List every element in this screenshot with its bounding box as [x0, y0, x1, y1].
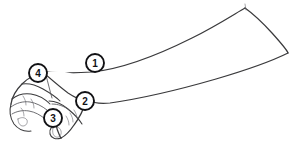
marker-3[interactable]: 3: [44, 109, 62, 127]
thumb-hatch-b: [70, 113, 73, 122]
anatomical-figure: 1 2 3 4: [0, 0, 298, 151]
forearm-silhouette: [88, 9, 288, 104]
thumb-hatch-a: [66, 116, 69, 125]
marker-4[interactable]: 4: [29, 64, 47, 82]
marker-3-circle[interactable]: [44, 109, 62, 127]
marker-1-circle[interactable]: [86, 54, 104, 72]
marker-2-circle[interactable]: [76, 92, 94, 110]
marker-1[interactable]: 1: [86, 54, 104, 72]
marker-4-circle[interactable]: [29, 64, 47, 82]
marker-2[interactable]: 2: [76, 92, 94, 110]
forearm-fist-drawing: 1 2 3 4: [0, 0, 298, 151]
